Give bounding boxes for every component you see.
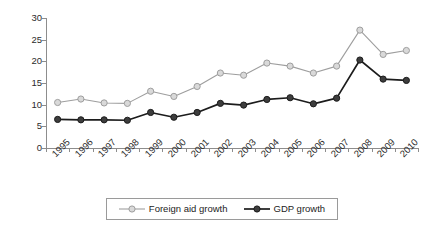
data-point: [217, 100, 223, 106]
legend-item-gdp-growth[interactable]: GDP growth: [244, 204, 326, 214]
data-point: [357, 57, 363, 63]
y-tick-label: 30: [20, 13, 42, 23]
data-point: [287, 63, 293, 69]
data-point: [264, 96, 270, 102]
data-point: [380, 76, 386, 82]
data-point: [101, 100, 107, 106]
data-point: [310, 101, 316, 107]
data-point: [148, 88, 154, 94]
data-point: [148, 109, 154, 115]
y-tick-label: 25: [20, 35, 42, 45]
data-point: [287, 95, 293, 101]
x-axis-labels: 1995199619971998199920002001200220032004…: [46, 152, 418, 192]
y-tick-label: 20: [20, 56, 42, 66]
line-chart: 051015202530 199519961997199819992000200…: [0, 0, 438, 229]
y-tick-label: 15: [20, 78, 42, 88]
data-point: [78, 96, 84, 102]
data-point: [171, 114, 177, 120]
data-point: [310, 70, 316, 76]
data-point: [217, 70, 223, 76]
data-point: [403, 47, 409, 53]
series-gdp-growth: [55, 57, 410, 123]
data-point: [78, 117, 84, 123]
data-point: [55, 99, 61, 105]
data-point: [357, 27, 363, 33]
y-tick-label: 5: [20, 121, 42, 131]
data-point: [194, 83, 200, 89]
legend-marker-icon: [244, 204, 270, 214]
data-point: [194, 109, 200, 115]
legend-item-foreign-aid-growth[interactable]: Foreign aid growth: [119, 204, 228, 214]
series-layer: [46, 18, 418, 148]
data-point: [334, 95, 340, 101]
data-point: [124, 117, 130, 123]
data-point: [124, 100, 130, 106]
data-point: [380, 51, 386, 57]
data-point: [55, 116, 61, 122]
legend-label: GDP growth: [274, 204, 326, 214]
chart-legend: Foreign aid growthGDP growth: [106, 198, 338, 220]
series-line: [58, 60, 407, 120]
plot-area: [46, 18, 418, 148]
data-point: [101, 117, 107, 123]
data-point: [171, 93, 177, 99]
x-tick: [418, 148, 419, 152]
data-point: [264, 60, 270, 66]
data-point: [334, 63, 340, 69]
data-point: [241, 102, 247, 108]
y-tick-label: 10: [20, 100, 42, 110]
series-line: [58, 30, 407, 103]
data-point: [403, 77, 409, 83]
legend-label: Foreign aid growth: [149, 204, 228, 214]
legend-marker-icon: [119, 204, 145, 214]
y-tick-label: 0: [20, 143, 42, 153]
data-point: [241, 72, 247, 78]
